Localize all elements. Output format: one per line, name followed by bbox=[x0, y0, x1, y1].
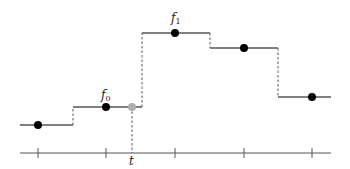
label-f1: f1 bbox=[170, 11, 181, 26]
sample-dot bbox=[34, 121, 42, 129]
sample-dot bbox=[102, 103, 110, 111]
query-dot bbox=[128, 103, 136, 111]
sample-dot bbox=[171, 29, 179, 37]
x-axis bbox=[20, 148, 331, 158]
sample-dot bbox=[240, 44, 248, 52]
step-segments bbox=[20, 33, 331, 125]
sample-dot bbox=[308, 93, 316, 101]
label-t: t bbox=[129, 154, 134, 168]
step-function-diagram: f0 f1 t bbox=[0, 0, 350, 169]
label-f0: f0 bbox=[100, 88, 111, 103]
sample-points bbox=[34, 29, 316, 129]
